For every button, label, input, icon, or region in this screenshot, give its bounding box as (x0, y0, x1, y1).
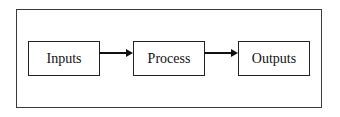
node-inputs: Inputs (28, 41, 100, 76)
arrow-right-icon (204, 47, 239, 59)
node-process-label: Process (148, 51, 191, 67)
node-outputs: Outputs (238, 41, 310, 76)
arrow-right-icon (99, 47, 134, 59)
node-outputs-label: Outputs (252, 51, 296, 67)
node-process: Process (133, 41, 205, 76)
node-inputs-label: Inputs (47, 51, 82, 67)
